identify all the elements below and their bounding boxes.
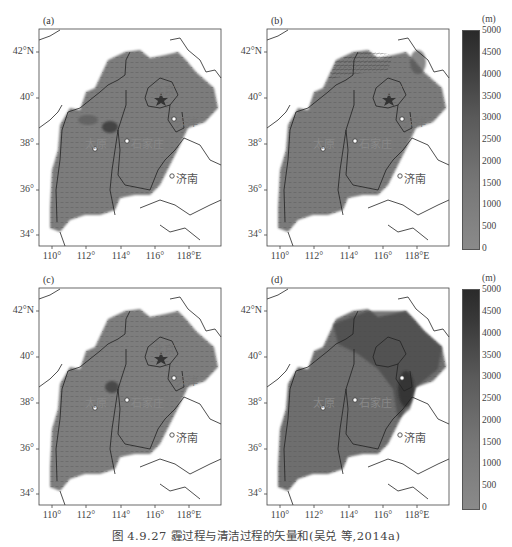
x-tick-label: 110° [263, 509, 297, 520]
y-tick-label: 36° [0, 183, 34, 194]
panel-a: (a) [0, 0, 230, 265]
city-label-tianjin: 天津 [404, 113, 426, 129]
colorbar-unit: (m) [482, 14, 496, 24]
y-tick-label: 38° [228, 396, 262, 407]
city-label-jinan: 济南 [176, 429, 198, 445]
shijiazhuang-marker-icon [353, 398, 357, 402]
y-tick-label: 40° [228, 91, 262, 102]
y-tick-label: 36° [0, 442, 34, 453]
city-label-shijiazhuang: 石家庄 [131, 135, 164, 151]
y-tick-label: 36° [228, 442, 262, 453]
y-tick-label: 36° [228, 183, 262, 194]
y-tick-label: 34° [0, 228, 34, 239]
y-tick-label: 40° [0, 350, 34, 361]
colorbar-tick: 1000 [482, 458, 501, 468]
x-tick-label: 118°E [172, 509, 206, 520]
jinan-marker-icon [398, 433, 402, 437]
colorbar-tick: 500 [482, 480, 496, 490]
colorbar-tick: 4500 [482, 306, 501, 316]
map-c [0, 259, 230, 524]
x-tick-label: 116° [138, 509, 172, 520]
colorbar-gradient [462, 289, 480, 510]
figure-caption: 图 4.9.27 霾过程与清洁过程的矢量和(吴兑 等,2014a) [0, 527, 512, 543]
shijiazhuang-marker-icon [353, 139, 357, 143]
x-ticks [52, 246, 189, 249]
colorbar-tick: 1000 [482, 199, 501, 209]
colorbar-tick: 1500 [482, 437, 501, 447]
colorbar-tick: 0 [482, 243, 487, 253]
colorbar-tick: 4500 [482, 47, 501, 57]
map-d [228, 259, 458, 524]
map-b [228, 0, 458, 265]
colorbar-tick: 500 [482, 221, 496, 231]
x-tick-label: 112° [297, 509, 331, 520]
y-tick-label: 38° [0, 137, 34, 148]
city-label-shijiazhuang: 石家庄 [359, 135, 392, 151]
map-a [0, 0, 230, 265]
colorbar-tick: 3500 [482, 350, 501, 360]
y-tick-label: 34° [228, 487, 262, 498]
colorbar-tick: 5000 [482, 284, 501, 294]
y-tick-label: 42°N [228, 45, 262, 56]
colorbar-tick: 3500 [482, 91, 501, 101]
tianjin-marker-icon [400, 376, 404, 380]
x-tick-label: 112° [69, 509, 103, 520]
jinan-marker-icon [170, 174, 174, 178]
colorbar-tick: 5000 [482, 25, 501, 35]
colorbar-gradient [462, 30, 480, 250]
y-tick-label: 42°N [0, 45, 34, 56]
y-tick-label: 42°N [0, 304, 34, 315]
colorbar-tick: 2000 [482, 156, 501, 166]
colorbar-tick: 2000 [482, 415, 501, 425]
x-tick-label: 116° [366, 509, 400, 520]
colorbar-tick: 4000 [482, 69, 501, 79]
x-tick-label: 110° [35, 509, 69, 520]
city-label-taiyuan: 太原 [85, 135, 107, 151]
y-tick-label: 40° [228, 350, 262, 361]
city-label-jinan: 济南 [404, 429, 426, 445]
jinan-marker-icon [170, 433, 174, 437]
y-tick-label: 38° [228, 137, 262, 148]
x-tick-label: 114° [104, 509, 138, 520]
y-tick-label: 42°N [228, 304, 262, 315]
jinan-marker-icon [398, 174, 402, 178]
colorbar-tick: 4000 [482, 328, 501, 338]
city-label-shijiazhuang: 石家庄 [359, 394, 392, 410]
panel-b: (b) [228, 0, 458, 265]
panel-c: (c) [0, 259, 230, 524]
city-label-taiyuan: 太原 [85, 394, 107, 410]
colorbar-tick: 2500 [482, 393, 501, 403]
city-label-beijing: 北京 [153, 341, 175, 357]
colorbar-tick: 2500 [482, 134, 501, 144]
y-tick-label: 38° [0, 396, 34, 407]
colorbar-unit: (m) [482, 273, 496, 283]
shijiazhuang-marker-icon [125, 139, 129, 143]
colorbar-tick: 1500 [482, 178, 501, 188]
x-tick-label: 118°E [400, 509, 434, 520]
panel-d: (d) [228, 259, 458, 524]
city-label-beijing: 北京 [153, 82, 175, 98]
city-label-tianjin: 天津 [176, 372, 198, 388]
city-label-taiyuan: 太原 [313, 135, 335, 151]
colorbar-tick: 0 [482, 502, 487, 512]
x-tick-label: 114° [332, 509, 366, 520]
city-label-beijing: 北京 [381, 82, 403, 98]
colorbar-tick: 3000 [482, 371, 501, 381]
shijiazhuang-marker-icon [125, 398, 129, 402]
city-label-jinan: 济南 [176, 170, 198, 186]
y-ticks [36, 52, 39, 235]
y-tick-label: 40° [0, 91, 34, 102]
city-label-tianjin: 天津 [176, 113, 198, 129]
y-tick-label: 34° [228, 228, 262, 239]
city-label-taiyuan: 太原 [313, 394, 335, 410]
y-tick-label: 34° [0, 487, 34, 498]
city-label-jinan: 济南 [404, 170, 426, 186]
city-label-shijiazhuang: 石家庄 [131, 394, 164, 410]
colorbar-tick: 3000 [482, 112, 501, 122]
